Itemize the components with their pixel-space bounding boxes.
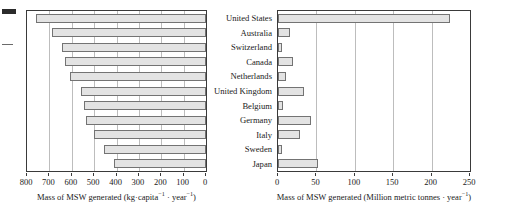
bar-australia xyxy=(278,28,290,37)
category-label-netherlands: Netherlands xyxy=(230,71,272,81)
bar-canada xyxy=(278,57,293,66)
category-label-united-states: United States xyxy=(226,13,272,23)
chart-panel-per-capita: 8007006005004003002001000 Mass of MSW ge… xyxy=(26,10,207,172)
bar-australia xyxy=(52,28,206,37)
per-capita-tick-label: 700 xyxy=(42,177,55,187)
bar-switzerland xyxy=(62,43,206,52)
msw-generation-figure: 8007006005004003002001000 Mass of MSW ge… xyxy=(0,0,507,217)
chart-panel-total-mass: 050100150200250 Mass of MSW generated (M… xyxy=(277,10,471,172)
total-mass-tick xyxy=(315,173,316,176)
bar-germany xyxy=(278,116,311,125)
bar-series-per-capita xyxy=(27,11,206,171)
category-label-canada: Canada xyxy=(246,57,272,67)
per-capita-tick xyxy=(71,173,72,176)
bar-italy xyxy=(94,130,206,139)
total-mass-tick-label: 150 xyxy=(386,177,399,187)
category-label-united-kingdom: United Kingdom xyxy=(214,86,272,96)
bar-belgium xyxy=(84,101,206,110)
category-label-italy: Italy xyxy=(256,130,272,140)
category-label-australia: Australia xyxy=(240,28,272,38)
total-mass-tick xyxy=(392,173,393,176)
per-capita-tick-label: 500 xyxy=(87,177,100,187)
bar-canada xyxy=(65,57,206,66)
per-capita-tick xyxy=(116,173,117,176)
per-capita-tick-label: 800 xyxy=(20,177,33,187)
category-label-switzerland: Switzerland xyxy=(231,42,272,52)
total-mass-tick xyxy=(431,173,432,176)
bar-netherlands xyxy=(278,72,286,81)
total-mass-tick xyxy=(277,173,278,176)
per-capita-tick-label: 200 xyxy=(154,177,167,187)
total-mass-tick-label: 200 xyxy=(424,177,437,187)
bar-united-kingdom xyxy=(81,87,206,96)
total-mass-tick-label: 250 xyxy=(463,177,476,187)
bar-sweden xyxy=(104,145,206,154)
per-capita-tick-label: 0 xyxy=(203,177,207,187)
crop-mark-top-icon xyxy=(2,9,16,14)
bar-italy xyxy=(278,130,300,139)
bar-japan xyxy=(114,159,206,168)
total-mass-tick-label: 100 xyxy=(347,177,360,187)
per-capita-tick xyxy=(48,173,49,176)
plot-area-total-mass xyxy=(277,10,471,172)
bar-switzerland xyxy=(278,43,282,52)
bar-united-kingdom xyxy=(278,87,304,96)
category-axis-labels: United StatesAustraliaSwitzerlandCanadaN… xyxy=(207,10,275,172)
per-capita-tick-label: 400 xyxy=(109,177,122,187)
per-capita-tick xyxy=(26,173,27,176)
per-capita-tick-label: 300 xyxy=(132,177,145,187)
total-mass-tick-label: 50 xyxy=(311,177,320,187)
bar-united-states xyxy=(36,14,206,23)
per-capita-tick xyxy=(160,173,161,176)
bar-netherlands xyxy=(70,72,206,81)
per-capita-tick xyxy=(93,173,94,176)
category-label-sweden: Sweden xyxy=(245,144,272,154)
bar-sweden xyxy=(278,145,282,154)
bar-united-states xyxy=(278,14,450,23)
total-mass-tick-label: 0 xyxy=(275,177,279,187)
total-mass-tick xyxy=(354,173,355,176)
bar-belgium xyxy=(278,101,283,110)
x-axis-caption-per-capita: Mass of MSW generated (kg·capita−1 · yea… xyxy=(2,188,231,203)
per-capita-tick xyxy=(205,173,206,176)
per-capita-tick xyxy=(183,173,184,176)
bar-germany xyxy=(86,116,206,125)
crop-mark-middle-icon xyxy=(2,44,13,45)
total-mass-tick xyxy=(469,173,470,176)
category-label-belgium: Belgium xyxy=(242,101,272,111)
category-label-germany: Germany xyxy=(240,115,272,125)
bar-japan xyxy=(278,159,318,168)
per-capita-tick xyxy=(138,173,139,176)
plot-area-per-capita xyxy=(26,10,207,172)
x-axis-caption-total-mass: Mass of MSW generated (Million metric to… xyxy=(265,188,483,203)
per-capita-tick-label: 100 xyxy=(176,177,189,187)
bar-series-total-mass xyxy=(278,11,470,171)
per-capita-tick-label: 600 xyxy=(64,177,77,187)
category-label-japan: Japan xyxy=(252,159,272,169)
